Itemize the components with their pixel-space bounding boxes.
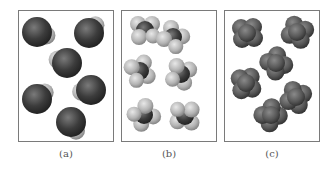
molecule: [74, 16, 104, 48]
molecule: [231, 68, 262, 100]
molecule: [49, 48, 82, 78]
panel-a-label: (a): [18, 148, 114, 159]
panel-c-label: (c): [224, 148, 320, 159]
molecule: [22, 84, 54, 114]
molecule: [156, 20, 190, 54]
panel-c-molecules: [231, 16, 314, 133]
molecule: [165, 58, 197, 91]
molecule: [170, 102, 200, 131]
molecule: [259, 46, 293, 80]
molecule: [22, 17, 55, 47]
panel-b-molecules: [124, 16, 200, 132]
molecule: [127, 98, 162, 132]
molecule: [124, 55, 156, 88]
panel-a-molecules: [22, 16, 106, 139]
molecule: [130, 16, 161, 45]
molecule: [281, 16, 314, 49]
panel-b-label: (b): [121, 148, 217, 159]
molecule: [232, 18, 263, 48]
molecule: [56, 107, 86, 140]
molecule: [72, 75, 106, 105]
molecule-drawing: [0, 0, 336, 171]
